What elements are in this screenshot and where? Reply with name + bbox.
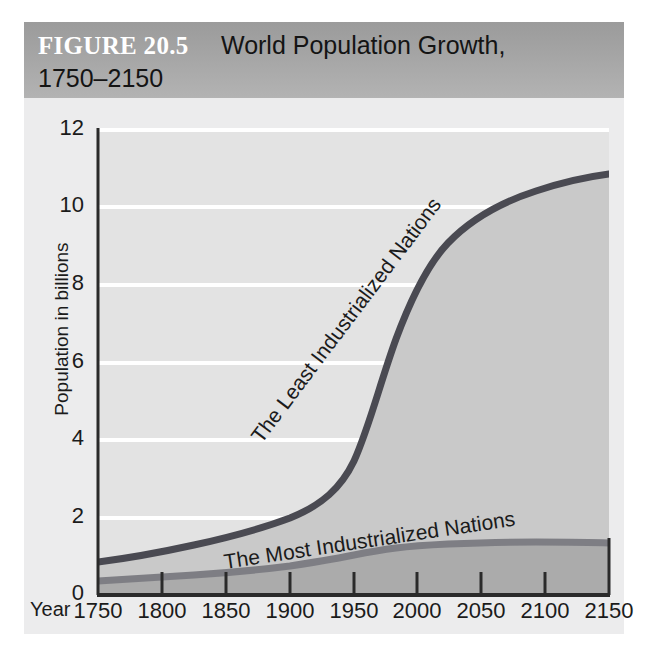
- figure-number-label: FIGURE 20.5: [38, 32, 189, 59]
- xtick-label-2100: 2100: [510, 598, 580, 624]
- xtick-label-2150: 2150: [574, 598, 644, 624]
- y-axis-title: Population in billions: [51, 229, 73, 429]
- xtick-label-1950: 1950: [319, 598, 389, 624]
- xtick-label-2050: 2050: [446, 598, 516, 624]
- chart-area: 12 10 8 6 4 2 0 Population in billions Y…: [24, 98, 624, 634]
- xtick-label-1750: 1750: [63, 598, 133, 624]
- ytick-label-12: 12: [38, 115, 84, 141]
- ytick-label-10: 10: [38, 192, 84, 218]
- xtick-label-1850: 1850: [191, 598, 261, 624]
- figure-title-line-2: 1750–2150: [38, 62, 624, 94]
- figure-header-band: FIGURE 20.5 World Population Growth, 175…: [24, 22, 624, 98]
- xtick-label-2000: 2000: [382, 598, 452, 624]
- figure-title-line-1: World Population Growth,: [221, 31, 505, 59]
- figure-header-line-1: FIGURE 20.5 World Population Growth,: [38, 28, 624, 62]
- ytick-label-2: 2: [38, 503, 84, 529]
- xtick-label-1800: 1800: [127, 598, 197, 624]
- figure-container: FIGURE 20.5 World Population Growth, 175…: [0, 0, 646, 650]
- xtick-label-1900: 1900: [255, 598, 325, 624]
